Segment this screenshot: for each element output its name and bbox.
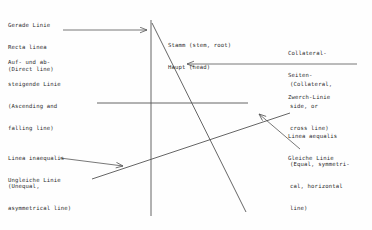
- label-unequal-asymmetrical: (Unequal, asymmetrical line): [8, 168, 71, 227]
- label-line: cal, horizontal: [290, 183, 350, 190]
- label-line: Gerade Linie: [8, 22, 54, 29]
- label-line: falling line): [8, 125, 61, 132]
- figure-page: Gerade Linie Recta linea (Direct line) A…: [0, 0, 372, 230]
- label-equal-symmetrical-horizontal: (Equal, symmetri- cal, horizontal line): [290, 146, 350, 227]
- label-line: asymmetrical line): [8, 205, 71, 212]
- label-line: Stamm (stem, root): [168, 42, 231, 49]
- label-line: Linea aequalis: [288, 133, 337, 140]
- label-line: Linea inaequalis: [8, 155, 64, 162]
- stroke-ascending-diagonal: [92, 113, 290, 179]
- label-stamm-haupt: Stamm (stem, root) Haupt (head): [168, 27, 231, 86]
- label-line: Auf- und ab-: [8, 59, 61, 66]
- label-line: Collateral-: [288, 50, 330, 57]
- label-line: Haupt (head): [168, 64, 231, 71]
- label-auf-und-absteigende-linie: Auf- und ab- steigende Linie (Ascending …: [8, 44, 61, 148]
- label-line: (Equal, symmetri-: [290, 161, 350, 168]
- label-line: side, or: [290, 103, 332, 110]
- arrow-unequal-line: [60, 158, 123, 166]
- label-line: steigende Linie: [8, 81, 61, 88]
- label-line: (Unequal,: [8, 183, 71, 190]
- label-line: (Collateral,: [290, 81, 332, 88]
- label-line: line): [290, 205, 350, 212]
- label-line: (Ascending and: [8, 103, 61, 110]
